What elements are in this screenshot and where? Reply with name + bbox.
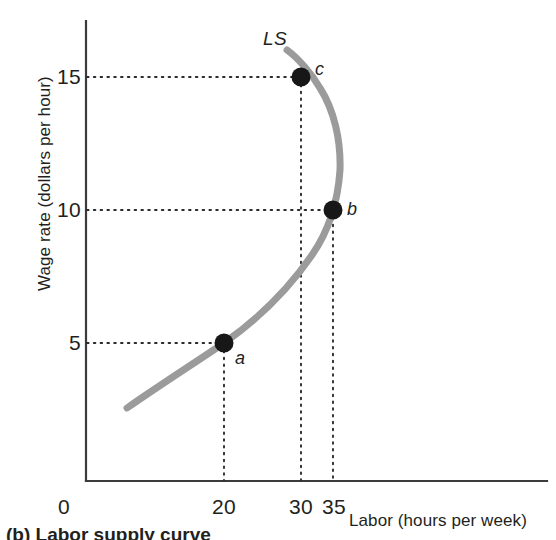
- point-label-c: c: [315, 60, 324, 78]
- x-origin-label-0: 0: [58, 496, 70, 517]
- point-label-a: a: [235, 349, 245, 367]
- panel-caption: (b) Labor supply curve: [6, 524, 211, 540]
- labor-supply-curve: [127, 50, 340, 408]
- y-axis-title: Wage rate (dollars per hour): [36, 76, 53, 291]
- y-tick-label-10: 10: [57, 199, 81, 220]
- point-label-b: b: [347, 200, 357, 218]
- data-point-a: [215, 334, 234, 353]
- chart-canvas: [0, 0, 556, 540]
- x-tick-label-30: 30: [289, 496, 313, 517]
- data-point-c: [292, 68, 311, 87]
- x-tick-label-35: 35: [322, 496, 346, 517]
- curve-label-ls: LS: [263, 29, 287, 48]
- y-tick-label-15: 15: [57, 66, 81, 87]
- x-tick-label-20: 20: [212, 496, 236, 517]
- y-tick-label-5: 5: [69, 332, 81, 353]
- labor-supply-figure: 15 10 5 0 20 30 35 Wage rate (dollars pe…: [0, 0, 556, 540]
- data-point-b: [324, 201, 343, 220]
- x-axis-title: Labor (hours per week): [349, 512, 527, 529]
